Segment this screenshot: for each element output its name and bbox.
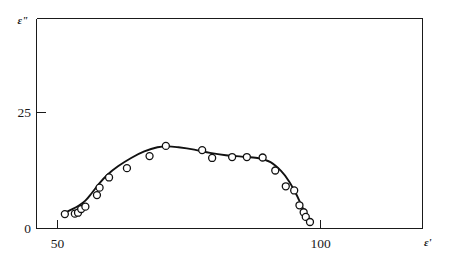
data-point (96, 184, 103, 191)
data-point (146, 153, 153, 160)
data-point (282, 183, 289, 190)
data-point (209, 154, 216, 161)
x-axis-tick-label-50: 50 (51, 236, 65, 251)
x-axis-tick-label-100: 100 (310, 236, 331, 251)
data-point (162, 142, 169, 149)
plot-background (0, 0, 450, 258)
data-point (259, 154, 266, 161)
data-point (61, 211, 68, 218)
data-point (296, 202, 303, 209)
cole-cole-plot: 0 25 50 100 ε" ε' (0, 0, 450, 258)
data-point (229, 154, 236, 161)
data-point (106, 174, 113, 181)
data-point (199, 147, 206, 154)
data-point (243, 154, 250, 161)
y-axis-title: ε" (17, 14, 28, 26)
y-axis-tick-label-0: 0 (24, 221, 31, 236)
figure-container: 0 25 50 100 ε" ε' (0, 0, 450, 258)
data-point (123, 165, 130, 172)
data-point (272, 167, 279, 174)
data-point (93, 192, 100, 199)
data-point (291, 187, 298, 194)
y-axis-tick-label-25: 25 (18, 105, 32, 120)
data-point (306, 219, 313, 226)
x-axis-title: ε' (424, 236, 432, 248)
data-point (82, 203, 89, 210)
